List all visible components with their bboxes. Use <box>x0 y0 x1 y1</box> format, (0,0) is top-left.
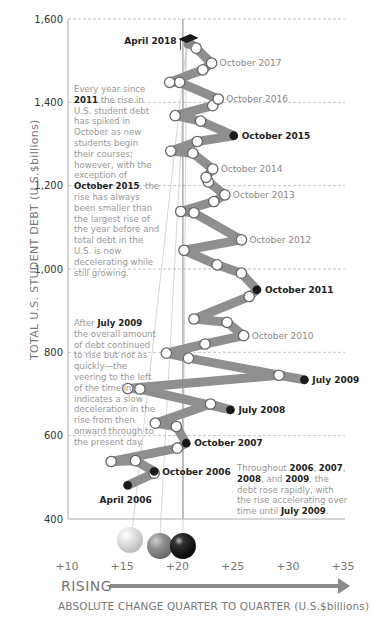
point-marker <box>206 58 216 68</box>
point-marker <box>170 110 180 120</box>
point-marker <box>164 77 174 87</box>
point-marker <box>183 353 193 363</box>
point-marker <box>236 235 246 245</box>
point-marker <box>213 94 223 104</box>
point-marker <box>189 314 199 324</box>
x-tick-label: +15 <box>111 560 134 573</box>
point-marker <box>166 146 176 156</box>
point-label: October 2013 <box>233 190 295 200</box>
annotation-middle: After July 2009 the overall amount of de… <box>74 318 158 448</box>
point-marker <box>195 116 205 126</box>
point-marker <box>161 348 171 358</box>
arrow-head-icon <box>338 578 350 594</box>
point-marker <box>192 136 202 146</box>
point-label: October 2006 <box>162 467 231 477</box>
point-label: April 2006 <box>100 495 152 505</box>
point-marker <box>176 206 186 216</box>
point-marker <box>172 443 182 453</box>
point-label: October 2017 <box>220 58 282 68</box>
chart-canvas: 4006008001,0001,2001,4001,600 April 2006… <box>0 0 373 626</box>
point-marker-highlight <box>229 131 238 140</box>
x-tick-label: +30 <box>276 560 299 573</box>
y-tick-label: 800 <box>44 347 63 358</box>
point-marker <box>189 208 199 218</box>
point-label: April 2018 <box>124 36 176 46</box>
point-label: October 2014 <box>221 164 283 174</box>
point-label: October 2015 <box>242 131 311 141</box>
x-tick-label: +10 <box>55 560 78 573</box>
point-marker-highlight <box>182 439 191 448</box>
point-marker <box>236 268 246 278</box>
y-tick-label: 1,400 <box>34 97 63 108</box>
x-tick-label: +20 <box>166 560 189 573</box>
point-label: October 2010 <box>252 331 314 341</box>
x-tick-label: +35 <box>331 560 354 573</box>
point-label: July 2008 <box>237 405 285 415</box>
point-marker-highlight <box>300 376 309 385</box>
point-marker <box>188 148 198 158</box>
point-marker <box>244 291 254 301</box>
legend-spheres <box>117 527 196 559</box>
point-label: October 2007 <box>194 438 263 448</box>
y-tick-label: 1,600 <box>34 14 63 25</box>
point-marker <box>179 245 189 255</box>
point-marker <box>212 260 222 270</box>
point-marker <box>130 455 140 465</box>
point-marker <box>205 399 215 409</box>
cap-board <box>178 34 198 43</box>
point-label: October 2016 <box>226 94 288 104</box>
y-axis-title: TOTAL U.S. STUDENT DEBT (U.S.$billions) <box>28 119 41 361</box>
point-marker <box>274 370 284 380</box>
sphere-light <box>117 527 143 553</box>
annotation-top: Every year since 2011 the rise in U.S. s… <box>74 84 160 278</box>
y-tick-label: 400 <box>44 514 63 525</box>
point-marker <box>198 65 208 75</box>
x-tick-label: +25 <box>221 560 244 573</box>
arrow-shaft <box>110 584 340 588</box>
point-marker <box>106 456 116 466</box>
point-marker <box>238 330 248 340</box>
point-label: October 2012 <box>249 235 311 245</box>
point-marker-highlight <box>123 481 132 490</box>
point-marker <box>171 421 181 431</box>
point-marker-highlight <box>253 286 262 295</box>
x-axis-title: ABSOLUTE CHANGE QUARTER TO QUARTER (U.S.… <box>58 600 369 612</box>
point-label: October 2011 <box>265 285 334 295</box>
y-tick-label: 600 <box>44 430 63 441</box>
point-marker <box>222 317 232 327</box>
point-label: July 2009 <box>311 375 359 385</box>
annotation-bottom: Throughout 2006, 2007, 2008, and 2009, t… <box>237 463 349 517</box>
x-axis-ticks: +10+15+20+25+30+35 <box>55 560 354 573</box>
point-marker-highlight <box>150 467 159 476</box>
point-marker <box>208 164 218 174</box>
point-marker <box>220 190 230 200</box>
point-marker <box>200 339 210 349</box>
point-marker <box>209 196 219 206</box>
sphere-dark <box>170 533 196 559</box>
rising-arrow <box>110 578 350 594</box>
point-marker-highlight <box>226 406 235 415</box>
point-marker <box>174 77 184 87</box>
rising-label: RISING <box>61 578 112 594</box>
sphere-mid <box>147 533 173 559</box>
